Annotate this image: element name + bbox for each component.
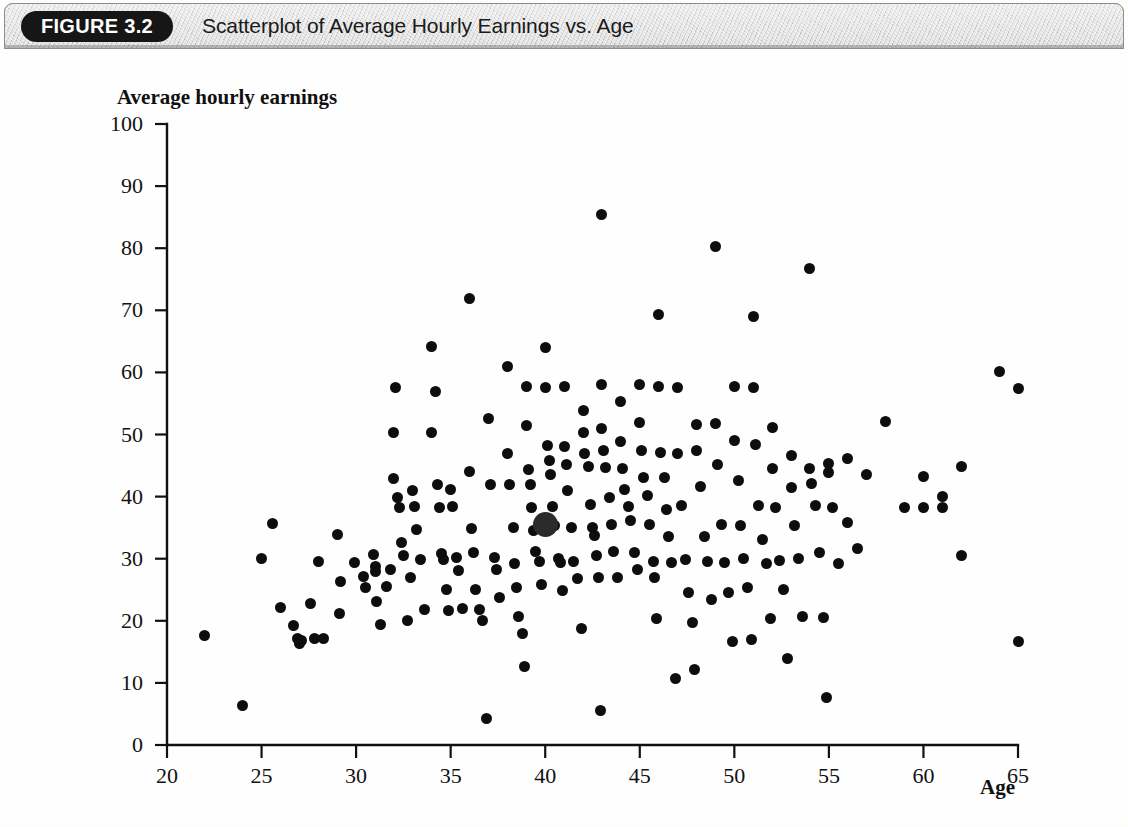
data-point [612,572,623,583]
data-point [1013,636,1024,647]
scatter-chart: Average hourly earnings Age 010203040506… [4,49,1124,823]
data-point [481,713,492,724]
data-point [334,608,345,619]
data-point [555,557,566,568]
y-tick-label: 30 [91,546,143,572]
x-tick-label: 50 [704,763,764,789]
data-point [738,553,749,564]
data-point [606,519,617,530]
data-point [296,635,307,646]
y-tick-label: 50 [91,422,143,448]
x-tick-label: 25 [232,763,292,789]
data-point [419,604,430,615]
x-tick-label: 60 [893,763,953,789]
data-point [782,653,793,664]
highlighted-data-point [533,512,558,537]
data-point [729,381,740,392]
data-point [918,502,929,513]
data-point [585,499,596,510]
data-point [765,613,776,624]
data-point [818,612,829,623]
data-point [583,461,594,472]
data-point [358,571,369,582]
data-point [489,552,500,563]
data-point [591,550,602,561]
data-point [388,427,399,438]
data-point [468,547,479,558]
data-point [710,418,721,429]
data-point [767,422,778,433]
data-point [746,634,757,645]
data-point [880,416,891,427]
data-point [593,572,604,583]
data-point [332,529,343,540]
data-point [438,554,449,565]
y-tick-label: 100 [91,111,143,137]
data-point [723,587,734,598]
x-tick-label: 45 [610,763,670,789]
y-tick-label: 0 [91,732,143,758]
data-point [814,547,825,558]
data-point [623,501,634,512]
data-point [716,519,727,530]
data-point [804,263,815,274]
data-point [464,293,475,304]
data-point [523,464,534,475]
data-point [370,566,381,577]
data-point [937,491,948,502]
data-point [644,519,655,530]
data-point [648,556,659,567]
data-point [842,453,853,464]
data-point [576,623,587,634]
data-point [525,479,536,490]
data-point [937,502,948,513]
data-point [691,419,702,430]
data-point [663,531,674,542]
x-tick-label: 35 [421,763,481,789]
data-point [702,556,713,567]
data-point [861,469,872,480]
y-tick-label: 20 [91,608,143,634]
data-point [385,564,396,575]
data-point [470,584,481,595]
data-point [521,420,532,431]
data-point [540,382,551,393]
data-point [617,463,628,474]
data-point [457,603,468,614]
data-point [712,459,723,470]
data-point [504,479,515,490]
data-point [572,573,583,584]
axes-lines [4,49,1124,823]
figure-title: Scatterplot of Average Hourly Earnings v… [202,14,634,38]
x-tick-label: 65 [988,763,1048,789]
data-point [256,553,267,564]
x-tick-label: 30 [326,763,386,789]
figure-number-badge: FIGURE 3.2 [21,11,173,42]
data-point [653,309,664,320]
data-point [786,450,797,461]
data-point [589,530,600,541]
data-point [767,463,778,474]
data-point [727,636,738,647]
data-point [735,520,746,531]
data-point [368,549,379,560]
data-point [595,705,606,716]
data-point [557,585,568,596]
data-point [494,592,505,603]
data-point [491,564,502,575]
data-point [561,459,572,470]
data-point [710,241,721,252]
data-point [335,576,346,587]
figure-page: FIGURE 3.2 Scatterplot of Average Hourly… [0,0,1128,827]
data-point [578,405,589,416]
data-point [833,558,844,569]
data-point [451,552,462,563]
data-point [733,475,744,486]
data-point [398,550,409,561]
data-point [659,472,670,483]
data-point [402,615,413,626]
data-point [578,427,589,438]
data-point [544,455,555,466]
y-tick-label: 90 [91,173,143,199]
data-point [827,502,838,513]
